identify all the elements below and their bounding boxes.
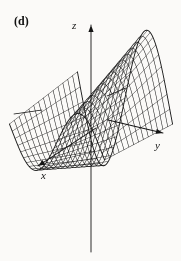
- y-axis-label: y: [155, 140, 160, 151]
- panel-label: (d): [14, 14, 29, 29]
- x-axis-label: x: [41, 170, 46, 181]
- figure-panel: (d) z y x: [0, 0, 181, 261]
- surface-wireframe-plot: [0, 0, 181, 261]
- z-axis-label: z: [72, 20, 76, 31]
